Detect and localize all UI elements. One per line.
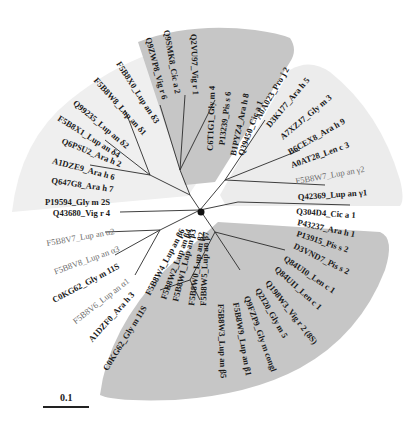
leaf-label: Q43680_Vig r 4	[53, 208, 111, 218]
phylogenetic-tree: F5B8X0_Lup an δ3F5B8W8_Lup an δ1Q99235_L…	[0, 0, 408, 425]
scale-bar-label: 0.1	[60, 392, 73, 403]
leaf-label: P19594_Gly m 2S	[45, 197, 110, 207]
root-node	[198, 209, 205, 216]
leaf-label: Q2VU97_Vig r 1	[189, 34, 201, 95]
scale-bar	[43, 406, 89, 408]
leaf-label: F5B8V7_Lup an α2	[46, 226, 116, 248]
